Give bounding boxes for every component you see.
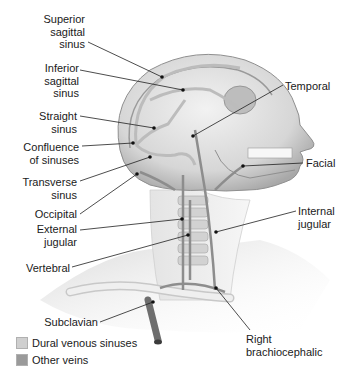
label-occipital: Occipital [14, 208, 77, 221]
label-straight-sinus: Straight sinus [24, 110, 77, 135]
label-transverse-sinus: Transverse sinus [14, 176, 77, 201]
label-inferior-sagittal-sinus: Inferior sagittal sinus [24, 62, 79, 100]
teeth [248, 148, 292, 158]
label-temporal: Temporal [285, 80, 330, 93]
legend-label: Dural venous sinuses [32, 337, 137, 349]
label-confluence-of-sinuses: Confluence of sinuses [14, 141, 79, 166]
legend-item-dural-venous-sinuses: Dural venous sinuses [16, 337, 137, 349]
label-superior-sagittal-sinus: Superior sagittal sinus [24, 13, 85, 51]
label-subclavian: Subclavian [20, 316, 98, 329]
label-right-brachiocephalic: Right brachiocephalic [246, 333, 322, 358]
legend-item-other-veins: Other veins [16, 354, 88, 366]
label-vertebral: Vertebral [10, 262, 70, 275]
legend-label: Other veins [32, 354, 88, 366]
label-facial: Facial [306, 157, 335, 170]
label-external-jugular: External jugular [14, 223, 77, 248]
swatch-other-veins [16, 354, 28, 366]
swatch-dural-venous-sinuses [16, 337, 28, 349]
label-internal-jugular: Internal jugular [298, 205, 335, 230]
